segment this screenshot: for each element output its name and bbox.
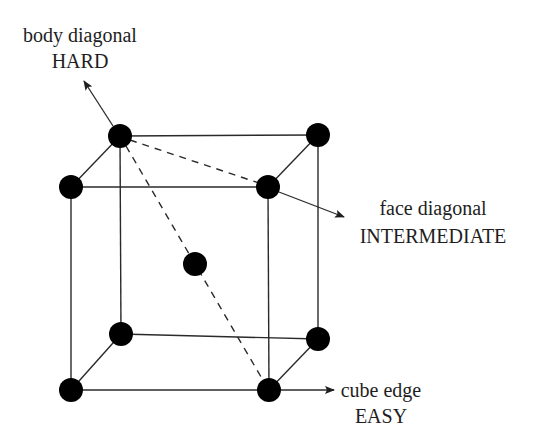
edge-back-top <box>120 135 318 136</box>
atom-back-top-left <box>108 124 132 148</box>
body-diagonal-difficulty: HARD <box>52 50 109 72</box>
body-diagonal-arrow <box>84 81 113 126</box>
cube-edge-difficulty: EASY <box>355 405 407 427</box>
edge-front-right <box>268 187 269 390</box>
bcc-cube-diagram: body diagonal HARD face diagonal INTERME… <box>0 0 539 446</box>
atom-body-center <box>183 252 207 276</box>
atom-front-top-right <box>256 175 280 199</box>
labels: body diagonal HARD face diagonal INTERME… <box>23 24 506 427</box>
atom-back-bottom-right <box>306 327 330 351</box>
edge-back-left <box>120 136 121 334</box>
face-diagonal-line <box>130 140 262 184</box>
atom-front-top-left <box>59 175 83 199</box>
face-diagonal-arrow <box>279 192 344 217</box>
face-diagonal-label: face diagonal <box>379 197 487 220</box>
atom-front-bottom-right <box>257 378 281 402</box>
face-diagonal-difficulty: INTERMEDIATE <box>360 225 507 247</box>
cube-edge-label: cube edge <box>341 379 422 402</box>
atom-back-bottom-left <box>109 322 133 346</box>
edge-back-bottom <box>121 334 318 339</box>
atom-front-bottom-left <box>59 378 83 402</box>
atom-back-top-right <box>306 123 330 147</box>
body-diagonal-label: body diagonal <box>23 24 137 47</box>
